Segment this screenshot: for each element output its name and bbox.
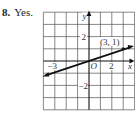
y-tick-label-neg2: −2 (79, 81, 89, 91)
origin-label: O (91, 61, 98, 71)
coordinate-graph: y x O −3 2 2 −2 (3, 1) (0, 0, 135, 113)
y-axis-label: y (82, 11, 87, 21)
x-tick-label-2: 2 (109, 61, 114, 71)
point-label: (3, 1) (100, 37, 120, 47)
y-tick-label-2: 2 (82, 32, 87, 42)
x-tick-label-neg3: −3 (48, 61, 58, 71)
point-3-1 (122, 47, 125, 50)
x-axis-label: x (127, 61, 132, 71)
